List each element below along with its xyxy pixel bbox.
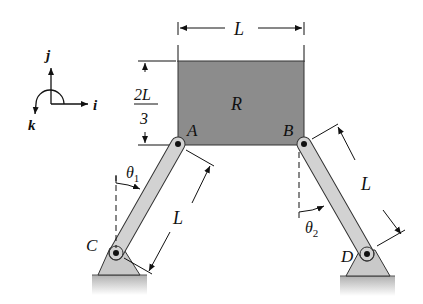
point-b-label: B bbox=[283, 121, 294, 140]
height-dimension: 2L 3 bbox=[134, 61, 176, 145]
theta1-label: θ1 bbox=[126, 164, 139, 184]
point-c-label: C bbox=[86, 236, 98, 255]
width-dimension: L bbox=[178, 19, 304, 62]
link-ca-length-label: L bbox=[172, 208, 183, 228]
theta2-label: θ2 bbox=[305, 219, 318, 239]
linkage-diagram: j i k L R 2L 3 bbox=[0, 0, 423, 304]
diagram-canvas: j i k L R 2L 3 bbox=[0, 0, 423, 304]
pin-a bbox=[175, 141, 181, 147]
height-numerator: 2L bbox=[134, 86, 151, 103]
i-axis-label: i bbox=[93, 97, 98, 113]
link-ca bbox=[116, 144, 178, 253]
point-a-label: A bbox=[186, 121, 198, 140]
point-d-label: D bbox=[340, 247, 354, 266]
link-bd-length-label: L bbox=[360, 174, 371, 194]
pin-b bbox=[301, 141, 307, 147]
axes-icon: j i k bbox=[28, 47, 98, 133]
width-label: L bbox=[233, 19, 244, 39]
height-denominator: 3 bbox=[139, 110, 148, 127]
j-axis-label: j bbox=[44, 47, 51, 63]
k-axis-label: k bbox=[28, 117, 36, 133]
plate-label: R bbox=[230, 94, 242, 114]
